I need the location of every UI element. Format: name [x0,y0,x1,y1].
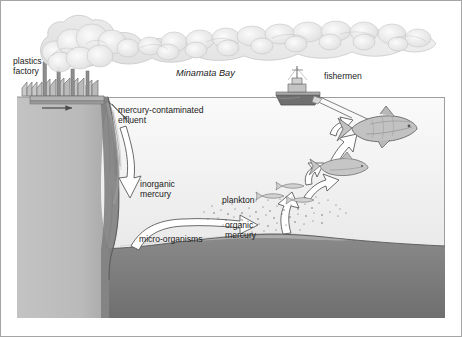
label-effluent-line1: mercury-contaminated [118,105,204,115]
label-inorganic-mercury-line2: mercury [140,189,172,199]
label-micro-organisms: micro-organisms [139,234,203,244]
minamata-bay-diagram: plastics factory Minamata Bay fishermen … [0,0,462,337]
label-plastics-factory-line2: factory [13,66,39,76]
label-fishermen: fishermen [324,71,362,81]
label-plankton: plankton [222,195,255,205]
label-effluent-line2: effluent [118,115,147,125]
label-plastics-factory-line1: plastics [13,56,42,66]
label-inorganic-mercury-line1: inorganic [140,179,176,189]
diagram-figure: plastics factory Minamata Bay fishermen … [0,0,462,337]
label-organic-mercury-line1: organic [225,220,254,230]
label-organic-mercury-line2: mercury [225,230,257,240]
label-minamata-bay: Minamata Bay [176,68,236,78]
